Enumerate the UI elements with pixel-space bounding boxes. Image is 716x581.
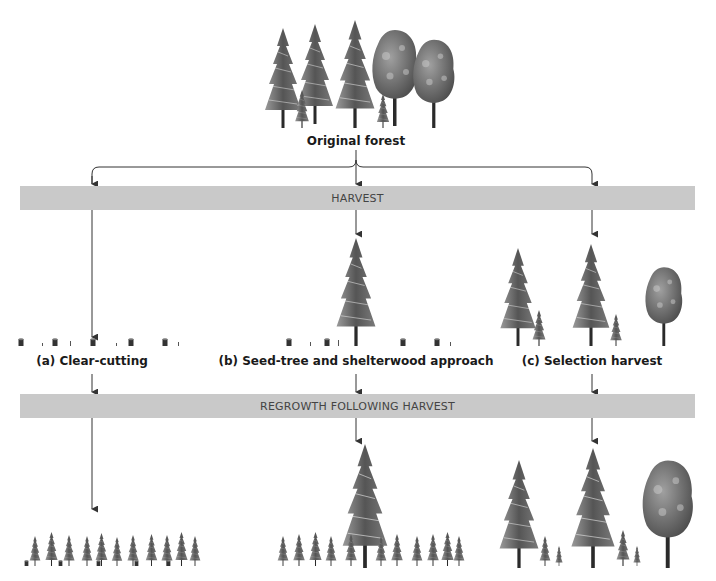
conifer-tree-icon [555, 546, 562, 566]
seed-tree-regrowth [270, 444, 466, 568]
clear-cut-regrowth [24, 532, 204, 568]
method-a-label: (a) Clear-cutting [36, 354, 148, 368]
conifer-tree-icon [633, 546, 640, 566]
deciduous-tree-icon [645, 267, 682, 346]
clear-cut-stumps [18, 338, 188, 346]
deciduous-tree-icon [643, 460, 693, 568]
method-b-label: (b) Seed-tree and shelterwood approach [218, 354, 493, 368]
conifer-tree-icon [610, 314, 622, 346]
conifer-tree-icon [500, 248, 535, 346]
conifer-tree-icon [571, 448, 614, 568]
conifer-tree-icon [500, 460, 539, 568]
regrowth-bar: REGROWTH FOLLOWING HARVEST [20, 394, 695, 418]
conifer-tree-icon [540, 536, 551, 566]
conifer-tree-icon [617, 530, 630, 566]
method-c-label: (c) Selection harvest [522, 354, 663, 368]
selection-harvest-illustration [486, 244, 706, 346]
conifer-tree-icon [337, 238, 376, 346]
conifer-tree-icon [573, 244, 610, 346]
selection-regrowth [486, 448, 706, 568]
seed-tree-illustration [280, 238, 460, 346]
harvest-bar: HARVEST [20, 186, 695, 210]
